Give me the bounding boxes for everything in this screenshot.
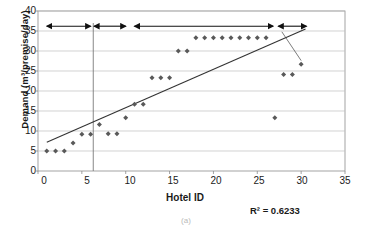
- figure-caption: (a): [0, 216, 372, 225]
- scatter-chart-figure: Demand (m³/premise/day) 40 35 30 25 20 1…: [0, 0, 372, 232]
- plot-canvas: [0, 0, 372, 232]
